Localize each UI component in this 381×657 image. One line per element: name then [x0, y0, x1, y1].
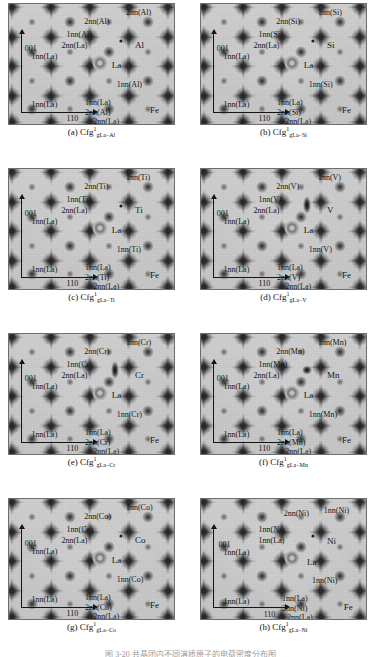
- interstitial-spot: [65, 571, 76, 582]
- interstitial-spot: [257, 347, 268, 358]
- interstitial-spot: [67, 106, 74, 113]
- lattice-spot: [8, 58, 20, 75]
- lattice-spot: [81, 3, 98, 16]
- lattice-spot: [8, 609, 20, 620]
- lattice-spot: [159, 388, 175, 405]
- label-inn-la-bottom-left-b: 1nn(La): [224, 100, 250, 109]
- lattice-spot: [200, 29, 212, 46]
- label-second-la-d: 2nn(La): [254, 206, 280, 215]
- caption-prefix-e: (e): [68, 457, 78, 467]
- lattice-spot: [8, 29, 20, 46]
- label-inn-solute-right-f: 1nn(Mn): [309, 410, 337, 419]
- axis-vertical-line: [213, 529, 214, 607]
- interstitial-spot: [220, 19, 227, 26]
- label-inn-solute-right-b: 1nn(Si): [309, 80, 333, 89]
- lattice-spot: [8, 87, 20, 104]
- panel-caption-h: (h) Cfg1gLa−Ni: [200, 622, 367, 633]
- lattice-spot: [235, 359, 252, 376]
- label-la-d: La: [304, 226, 314, 235]
- panel-caption-g: (g) Cfg1gLa−Co: [8, 622, 175, 633]
- lattice-spot: [200, 3, 212, 16]
- lattice-spot: [351, 417, 367, 434]
- interstitial-spot: [335, 182, 346, 193]
- label-axis-v-a: 001: [25, 44, 37, 53]
- panel-c: 1nn(Ti)2nn(Ti)1nn(Ti)2nn(La)Ti1nn(La)La1…: [8, 168, 175, 306]
- lattice-spot: [8, 279, 20, 290]
- axis-vertical-arrow: [19, 194, 25, 199]
- lattice-spot: [200, 553, 212, 570]
- label-inn-la-left-a: 1nn(La): [32, 52, 58, 61]
- interstitial-spot: [145, 48, 152, 55]
- label-axis-h-b: 110: [259, 114, 271, 123]
- label-2nn-solute-bottom-e: 2nn(Cr): [85, 438, 110, 447]
- interstitial-spot: [104, 541, 115, 552]
- label-2nn-solute-bottom-f: 2nn(Mn): [277, 438, 305, 447]
- lattice-spot: [159, 609, 175, 620]
- lattice-spot: [351, 553, 367, 570]
- panel-caption-c: (c) Cfg1gLa−Ti: [8, 292, 175, 303]
- lattice-spot: [43, 114, 60, 125]
- lattice-spot: [159, 252, 175, 269]
- axis-vertical-line: [213, 34, 214, 112]
- lattice-spot: [200, 252, 212, 269]
- axis-horizontal-line: [21, 277, 93, 278]
- axis-vertical-arrow: [19, 29, 25, 34]
- lattice-spot: [312, 279, 329, 290]
- label-inn-la-bottom-left-d: 1nn(La): [224, 265, 250, 274]
- panel-h: 1nn(Ni)2nn(Ni)1nn(Ni)1nn(La)Ni1nn(La)La1…: [200, 498, 367, 636]
- axis-vertical-line: [213, 199, 214, 277]
- label-inn-la-bottom-left-g: 1nn(La): [32, 595, 58, 604]
- axis-horizontal-line: [213, 277, 285, 278]
- lattice-spot: [351, 3, 367, 16]
- lattice-spot: [159, 417, 175, 434]
- lattice-spot: [235, 333, 252, 346]
- lattice-spot: [200, 444, 212, 455]
- caption-subscript-a: gLa−Al: [97, 132, 116, 138]
- lattice-spot: [81, 168, 98, 181]
- lattice-spot: [81, 388, 98, 405]
- interstitial-spot: [28, 349, 35, 356]
- panel-g: 1nn(Co)2nn(Co)1nn(Co)2nn(La)Co1nn(La)La1…: [8, 498, 175, 636]
- caption-base-h: Cfg: [272, 622, 286, 632]
- lattice-spot: [235, 29, 252, 46]
- axis-vertical-arrow: [19, 359, 25, 364]
- label-axis-v-d: 001: [217, 209, 229, 218]
- la-atom-spot: [284, 55, 299, 70]
- panel-d: 1nn(V)2nn(V)1nn(V)2nn(La)V1nn(La)La1nn(V…: [200, 168, 367, 306]
- label-inn-solute-right-g: 1nn(Co): [117, 575, 144, 584]
- panel-caption-a: (a) Cfg1gLa−Al: [8, 127, 175, 138]
- label-2nn-solute-bottom-d: 2nn(V): [277, 273, 300, 282]
- lattice-spot: [120, 279, 137, 290]
- la-atom-spot: [92, 385, 107, 400]
- lattice-spot: [351, 114, 367, 125]
- label-top-right-a: 2nn(Al): [126, 8, 151, 17]
- panel-caption-f: (f) Cfg1gLa−Mn: [200, 457, 367, 468]
- lattice-spot: [351, 87, 367, 104]
- interstitial-spot: [337, 48, 344, 55]
- caption-subscript-e: gLa−Cr: [97, 462, 116, 468]
- lattice-spot: [159, 582, 175, 599]
- label-la-h: La: [307, 558, 317, 567]
- la-atom-spot: [92, 550, 107, 565]
- interstitial-spot: [145, 213, 152, 220]
- density-map-b: 1nn(Si)2nn(Si)1nn(Si)2nn(La)Si1nn(La)La1…: [200, 3, 367, 125]
- label-axis-h-h: 110: [264, 610, 276, 619]
- label-inn-la-bottom-mid-c: 1nn(La): [85, 263, 111, 272]
- lattice-spot: [273, 333, 290, 346]
- label-inn-la-bottom-mid-f: 1nn(La): [277, 428, 303, 437]
- lattice-spot: [200, 333, 212, 346]
- lattice-spot: [312, 223, 329, 240]
- interstitial-spot: [220, 514, 227, 521]
- label-inn-la-left-b: 1nn(La): [224, 52, 250, 61]
- lattice-spot: [235, 3, 252, 16]
- label-second-la-f: 2nn(La): [254, 371, 280, 380]
- interstitial-spot: [104, 376, 115, 387]
- lattice-spot: [235, 279, 252, 290]
- axis-vertical-arrow: [19, 524, 25, 529]
- la-atom-spot: [92, 55, 107, 70]
- label-inn-solute-top-h: 1nn(Ni): [259, 525, 284, 534]
- lattice-spot: [8, 114, 20, 125]
- label-top-right-e: 1nn(Cr): [126, 338, 151, 347]
- label-inn-la-bottom-left-a: 1nn(La): [32, 100, 58, 109]
- interstitial-spot: [220, 184, 227, 191]
